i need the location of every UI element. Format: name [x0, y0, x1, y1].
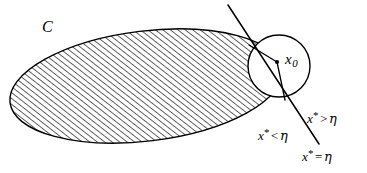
center-point-label: x0	[285, 52, 298, 69]
hyperplane-bound: η	[324, 149, 332, 164]
halfplane-greater-star: *	[313, 109, 319, 121]
center-point-subscript: 0	[292, 57, 298, 69]
halfplane-less-relation: <	[270, 128, 280, 143]
halfplane-greater-bound: η	[329, 111, 337, 126]
halfplane-greater-var: x	[307, 111, 313, 126]
halfplane-less-bound: η	[280, 128, 288, 143]
halfplane-greater-label: x*>η	[307, 110, 337, 125]
hyperplane-label: x*=η	[302, 148, 332, 163]
halfplane-less-var: x	[258, 128, 264, 143]
halfplane-greater-relation: >	[319, 111, 329, 126]
center-point-dot	[275, 60, 279, 64]
hyperplane-star: *	[308, 147, 314, 159]
hyperplane-var: x	[302, 149, 308, 164]
halfplane-less-label: x*<η	[258, 127, 288, 142]
convex-set-label: C	[42, 19, 53, 35]
halfplane-less-star: *	[264, 126, 270, 138]
center-point-base: x	[285, 51, 292, 67]
convex-set-C	[3, 15, 288, 158]
figure-canvas: C x0 x*>η x*<η x*=η	[0, 0, 367, 173]
convex-set-fill	[3, 15, 288, 158]
hyperplane-relation: =	[314, 149, 324, 164]
